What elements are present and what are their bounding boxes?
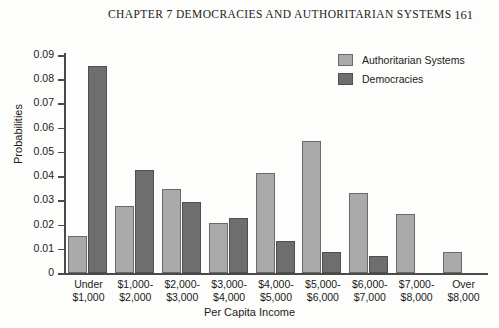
bar-authoritarian bbox=[115, 206, 134, 273]
legend-swatch-icon bbox=[338, 54, 353, 66]
y-axis-tick-label: 0.03 bbox=[8, 193, 54, 205]
bar-authoritarian bbox=[209, 223, 228, 273]
legend-label: Democracies bbox=[362, 73, 423, 85]
x-axis-line bbox=[64, 273, 488, 275]
legend-item: Authoritarian Systems bbox=[338, 54, 465, 66]
bar-group bbox=[68, 55, 111, 273]
bar-group bbox=[209, 55, 252, 273]
bar-democracies bbox=[88, 66, 107, 273]
y-axis-tick bbox=[58, 249, 64, 251]
x-axis-title: Per Capita Income bbox=[0, 306, 499, 318]
bar-authoritarian bbox=[256, 173, 275, 273]
y-axis-tick bbox=[58, 200, 64, 202]
bar-authoritarian bbox=[443, 252, 462, 273]
y-axis-tick-label: 0.07 bbox=[8, 96, 54, 108]
bar-authoritarian bbox=[349, 193, 368, 273]
y-axis-tick bbox=[58, 273, 64, 275]
y-axis-tick bbox=[58, 103, 64, 105]
chapter-heading: CHAPTER 7 DEMOCRACIES AND AUTHORITARIAN … bbox=[108, 8, 451, 20]
y-axis-tick-label: 0.08 bbox=[8, 72, 54, 84]
y-axis-tick-label: 0.09 bbox=[8, 48, 54, 60]
bar-democracies bbox=[229, 218, 248, 273]
y-axis-tick-label: 0.05 bbox=[8, 145, 54, 157]
y-axis-tick-label: 0 bbox=[8, 266, 54, 278]
bar-group bbox=[162, 55, 205, 273]
legend-label: Authoritarian Systems bbox=[362, 54, 465, 66]
y-axis-tick bbox=[58, 225, 64, 227]
y-axis-tick bbox=[58, 55, 64, 57]
y-axis-tick bbox=[58, 79, 64, 81]
y-axis-tick-label: 0.02 bbox=[8, 218, 54, 230]
bar-democracies bbox=[135, 170, 154, 273]
x-axis-tick-label: Over$8,000 bbox=[431, 278, 497, 303]
page-number: 161 bbox=[454, 8, 473, 23]
bar-chart-figure: Probabilities 0.090.080.070.060.050.040.… bbox=[0, 40, 499, 328]
y-axis-title: Probabilities bbox=[12, 64, 24, 204]
bar-authoritarian bbox=[302, 141, 321, 273]
bar-democracies bbox=[182, 202, 201, 273]
y-axis-tick bbox=[58, 152, 64, 154]
bar-group bbox=[256, 55, 299, 273]
page-header: CHAPTER 7 DEMOCRACIES AND AUTHORITARIAN … bbox=[0, 6, 499, 28]
bar-democracies bbox=[276, 241, 295, 273]
y-axis-tick bbox=[58, 128, 64, 130]
bar-authoritarian bbox=[162, 189, 181, 273]
legend-item: Democracies bbox=[338, 73, 465, 85]
bar-democracies bbox=[369, 256, 388, 273]
y-axis-tick-label: 0.04 bbox=[8, 169, 54, 181]
legend-swatch-icon bbox=[338, 73, 353, 85]
y-axis-tick-label: 0.01 bbox=[8, 242, 54, 254]
bar-democracies bbox=[322, 252, 341, 273]
y-axis-tick-label: 0.06 bbox=[8, 121, 54, 133]
bar-authoritarian bbox=[68, 236, 87, 273]
bar-authoritarian bbox=[396, 214, 415, 273]
bar-group bbox=[115, 55, 158, 273]
chart-legend: Authoritarian SystemsDemocracies bbox=[338, 54, 465, 92]
y-axis-tick bbox=[58, 176, 64, 178]
